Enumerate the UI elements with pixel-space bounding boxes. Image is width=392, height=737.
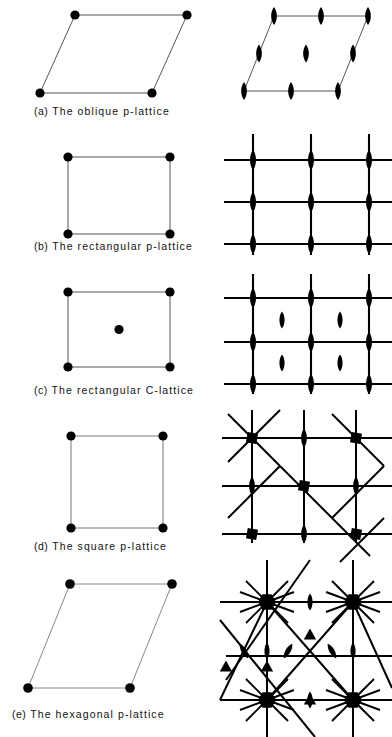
caption-tag-square: (d) (34, 540, 48, 552)
caption-text-square: The square p-lattice (52, 540, 167, 552)
symmetry-diagram-square (220, 408, 392, 548)
caption-oblique: (a) The oblique p-lattice (34, 105, 170, 117)
caption-tag-hexagonal: (e) (12, 708, 26, 720)
lattice-row-rectangular-p: (b) The rectangular p-lattice (0, 130, 392, 260)
symmetry-diagram-rectangular-p-drawing (220, 130, 392, 255)
caption-tag-rectangular-p: (b) (34, 240, 48, 252)
symmetry-diagram-oblique (220, 0, 392, 130)
unit-cell-oblique-drawing (0, 0, 220, 105)
unit-cell-square-drawing (0, 408, 220, 538)
caption-tag-oblique: (a) (34, 105, 48, 117)
unit-cell-rectangular-p-drawing (0, 130, 220, 240)
caption-rectangular-p: (b) The rectangular p-lattice (34, 240, 193, 252)
lattice-row-square: (d) The square p-lattice (0, 408, 392, 548)
caption-rectangular-c: (c) The rectangular C-lattice (34, 384, 194, 396)
unit-cell-hexagonal-drawing (0, 560, 220, 710)
caption-text-hexagonal: The hexagonal p-lattice (30, 708, 164, 720)
unit-cell-square (0, 408, 220, 548)
symmetry-diagram-hexagonal (220, 560, 392, 737)
caption-hexagonal: (e) The hexagonal p-lattice (12, 708, 165, 720)
symmetry-diagram-rectangular-c-drawing (220, 272, 392, 394)
caption-tag-rectangular-c: (c) (34, 384, 48, 396)
unit-cell-rectangular-c (0, 272, 220, 402)
centring-point (114, 325, 123, 334)
symmetry-diagram-square-drawing (220, 408, 392, 543)
caption-text-oblique: The oblique p-lattice (52, 105, 170, 117)
symmetry-diagram-rectangular-p (220, 130, 392, 260)
lattice-row-hexagonal: (e) The hexagonal p-lattice (0, 560, 392, 737)
symmetry-diagram-hexagonal-drawing (220, 560, 392, 737)
lattice-row-oblique: (a) The oblique p-lattice (0, 0, 392, 130)
caption-text-rectangular-c: The rectangular C-lattice (52, 384, 194, 396)
caption-square: (d) The square p-lattice (34, 540, 167, 552)
caption-text-rectangular-p: The rectangular p-lattice (52, 240, 193, 252)
lattice-row-rectangular-c: (c) The rectangular C-lattice (0, 272, 392, 402)
bravais-lattice-figure: (a) The oblique p-lattice (0, 0, 392, 737)
unit-cell-rectangular-c-drawing (0, 272, 220, 382)
symmetry-diagram-oblique-drawing (220, 0, 392, 105)
symmetry-diagram-rectangular-c (220, 272, 392, 402)
